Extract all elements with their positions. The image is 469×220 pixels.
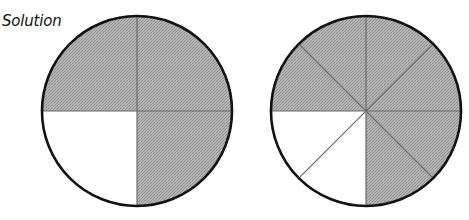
fraction-circles <box>0 0 469 220</box>
quarters-circle <box>42 16 232 206</box>
eighths-circle <box>271 16 461 206</box>
unshaded-quarter <box>42 111 137 206</box>
